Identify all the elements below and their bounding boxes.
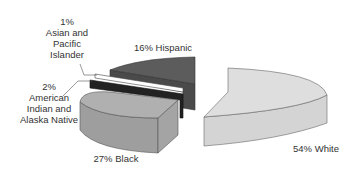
leader-asian bbox=[80, 64, 97, 75]
label-hispanic: 16% Hispanic bbox=[134, 42, 192, 53]
slice-white bbox=[204, 68, 327, 146]
label-aian-pct: 2% bbox=[42, 81, 56, 92]
pie-chart: 1% Asian and Pacific Islander 16% Hispan… bbox=[0, 0, 357, 177]
slice-black bbox=[80, 92, 178, 153]
label-asian-line1: Asian and bbox=[46, 27, 88, 38]
label-aian-line2: Indian and bbox=[27, 103, 71, 114]
label-asian-line2: Pacific bbox=[53, 38, 81, 49]
label-asian-line3: Islander bbox=[50, 49, 84, 60]
label-white: 54% White bbox=[293, 143, 339, 154]
label-aian-line3: Alaska Native bbox=[20, 114, 78, 125]
label-black: 27% Black bbox=[94, 153, 139, 164]
label-asian-pct: 1% bbox=[60, 16, 74, 27]
label-aian-line1: American bbox=[29, 92, 69, 103]
